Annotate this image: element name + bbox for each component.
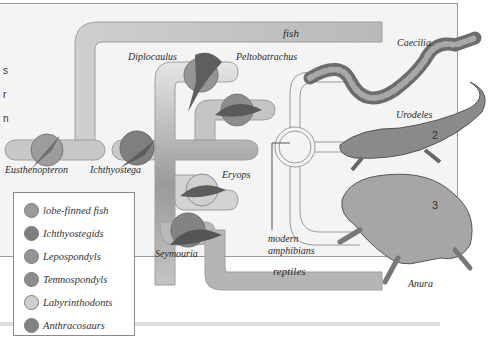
peltobatrachus-label: Peltobatrachus: [236, 52, 297, 62]
legend-label: lobe-finned fish: [43, 205, 109, 216]
modern-amphibians-label-line1: modern: [268, 234, 299, 244]
edge-text-fragment: r: [3, 90, 6, 100]
anura-illustration: [340, 174, 472, 282]
legend-label: Temnospondyls: [43, 274, 107, 285]
anura-label: Anura: [408, 279, 433, 289]
urodeles-label: Urodeles: [396, 110, 432, 120]
seymouria-label: Seymouria: [155, 249, 198, 259]
fish-label: fish: [283, 28, 299, 39]
legend-item: Anthracosaurs: [24, 314, 134, 337]
legend-label: Lepospondyls: [43, 251, 101, 262]
swatch-icon: [24, 272, 39, 287]
edge-text-fragment: s: [3, 66, 8, 76]
swatch-icon: [24, 249, 39, 264]
swatch-icon: [24, 203, 39, 218]
diplocaulus-label: Diplocaulus: [128, 52, 177, 62]
fish-band: [75, 22, 382, 150]
reptiles-label: reptiles: [273, 266, 306, 277]
legend-label: Ichthyostegids: [43, 228, 104, 239]
legend-label: Anthracosaurs: [43, 320, 105, 331]
legend-item: Lepospondyls: [24, 245, 134, 268]
legend-item: Labyrinthodonts: [24, 291, 134, 314]
swatch-icon: [24, 318, 39, 333]
caecilia-illustration: [310, 38, 475, 98]
legend-item: Temnospondyls: [24, 268, 134, 291]
ichthyostega-label: Ichthyostega: [90, 165, 141, 175]
caecilia-label: Caecilia: [397, 38, 431, 48]
peltobatrachus-node: [215, 94, 262, 126]
legend-item: lobe-finned fish: [24, 199, 134, 222]
urodeles-number: 2: [432, 130, 438, 141]
eusthenopteron-label: Eusthenopteron: [5, 165, 68, 175]
legend-label: Labyrinthodonts: [43, 297, 112, 308]
swatch-icon: [24, 295, 39, 310]
anura-number: 3: [432, 200, 438, 211]
modern-amphibians-label-line2: amphibians: [268, 246, 315, 256]
eryops-label: Eryops: [222, 170, 250, 180]
ichthyostega-node: [120, 131, 155, 168]
legend-item: Ichthyostegids: [24, 222, 134, 245]
modern-amphibians-tree: [272, 72, 360, 245]
legend: lobe-finned fish Ichthyostegids Lepospon…: [13, 192, 135, 336]
swatch-icon: [24, 226, 39, 241]
edge-text-fragment: n: [3, 114, 9, 124]
